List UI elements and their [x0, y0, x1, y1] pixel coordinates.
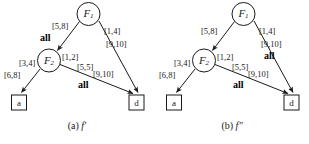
node-f2-label: F2 [199, 54, 209, 67]
diagram-panel-a: F1 F2 a d [5,8] all [1,4] [9,10] [3,4] [… [0, 0, 154, 144]
edge-f2-to-a-interval-0: [3,4] [174, 59, 190, 68]
edge-f2-to-d-all-marker: all [78, 80, 89, 90]
edge-f2-to-d-interval-2: [9,10] [93, 70, 114, 79]
edge-f2-to-d-interval-0: [1,2] [62, 53, 78, 62]
edge-f1-to-d-interval-0: [1,4] [104, 27, 120, 36]
edge-f1-to-f2-interval-0: [5,8] [52, 22, 68, 31]
panel-a-caption-function: f′ [81, 120, 86, 131]
node-a-label: a [17, 98, 21, 107]
edge-f1-to-f2-interval-0: [5,8] [201, 27, 217, 36]
edge-f2-to-a [22, 69, 41, 93]
edge-f2-to-d-interval-1: [5,5] [232, 63, 248, 72]
edge-f1-to-f2-all-marker: all [40, 33, 51, 43]
panel-b-caption-function: f″ [236, 120, 243, 131]
edge-f2-to-d-interval-2: [9,10] [248, 70, 269, 79]
diagram-panel-b: F1 F2 a d [5,8] [1,4] [9,10] all [3,4] [… [155, 0, 309, 144]
edge-f2-to-d-all-marker: all [233, 80, 244, 90]
edge-f1-to-d-interval-1: [9,10] [261, 40, 282, 49]
node-d-label: d [289, 98, 294, 107]
edge-f2-to-a-interval-1: [6,8] [159, 71, 175, 80]
edge-f2-to-d-interval-1: [5,5] [77, 63, 93, 72]
panel-b-caption-prefix: (b) [221, 120, 233, 131]
panel-a-caption-prefix: (a) [68, 120, 79, 131]
edge-f1-to-d-interval-0: [1,4] [259, 27, 275, 36]
node-d-label: d [134, 98, 139, 107]
edge-f1-to-d-interval-1: [9,10] [106, 40, 127, 49]
node-a-label: a [172, 98, 176, 107]
edge-f2-to-a-interval-0: [3,4] [19, 59, 35, 68]
node-f1-label: F1 [238, 8, 248, 21]
edge-f2-to-a [177, 69, 196, 93]
edge-f2-to-d-interval-0: [1,2] [217, 53, 233, 62]
panel-b-caption: (b) f″ [155, 120, 309, 131]
edge-f2-to-a-interval-1: [6,8] [4, 71, 20, 80]
panel-a-caption: (a) f′ [0, 120, 154, 131]
figure-root: F1 F2 a d [5,8] all [1,4] [9,10] [3,4] [… [0, 0, 309, 144]
node-f1-label: F1 [83, 8, 93, 21]
node-f2-label: F2 [44, 54, 54, 67]
edge-f1-to-d-all-marker: all [264, 51, 275, 61]
